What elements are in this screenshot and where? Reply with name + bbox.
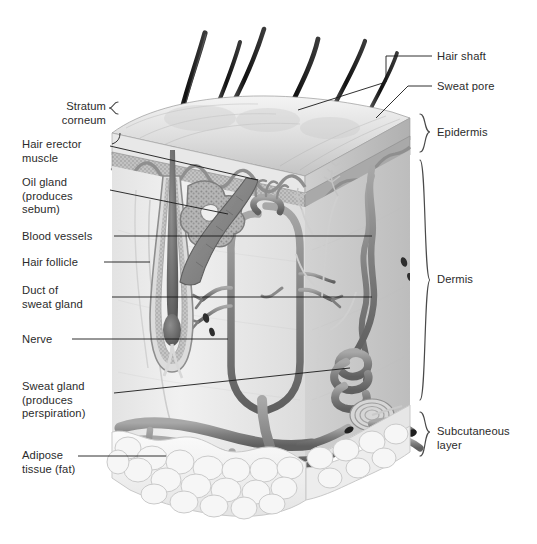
label-hair-erector-muscle: Hair erector muscle xyxy=(22,138,114,165)
label-hair-follicle: Hair follicle xyxy=(22,256,118,270)
label-sweat-gland: Sweat gland (produces perspiration) xyxy=(22,380,118,421)
bracket-dermis xyxy=(420,160,430,400)
label-hair-shaft: Hair shaft xyxy=(437,50,486,64)
label-nerve: Nerve xyxy=(22,333,82,347)
label-adipose-tissue: Adipose tissue (fat) xyxy=(22,449,112,476)
label-dermis: Dermis xyxy=(437,273,473,287)
bracket-epidermis xyxy=(420,114,430,152)
skin-cross-section-diagram: Stratum corneum Hair erector muscle Oil … xyxy=(0,0,537,544)
label-duct-of-sweat-gland: Duct of sweat gland xyxy=(22,284,118,311)
label-sweat-pore: Sweat pore xyxy=(437,80,495,94)
label-oil-gland: Oil gland (produces sebum) xyxy=(22,176,114,217)
label-stratum-corneum: Stratum corneum xyxy=(22,100,106,127)
label-epidermis: Epidermis xyxy=(437,126,488,140)
bracket-stratum-corneum xyxy=(109,102,118,114)
label-subcutaneous-layer: Subcutaneous layer xyxy=(437,425,510,452)
label-blood-vessels: Blood vessels xyxy=(22,230,118,244)
